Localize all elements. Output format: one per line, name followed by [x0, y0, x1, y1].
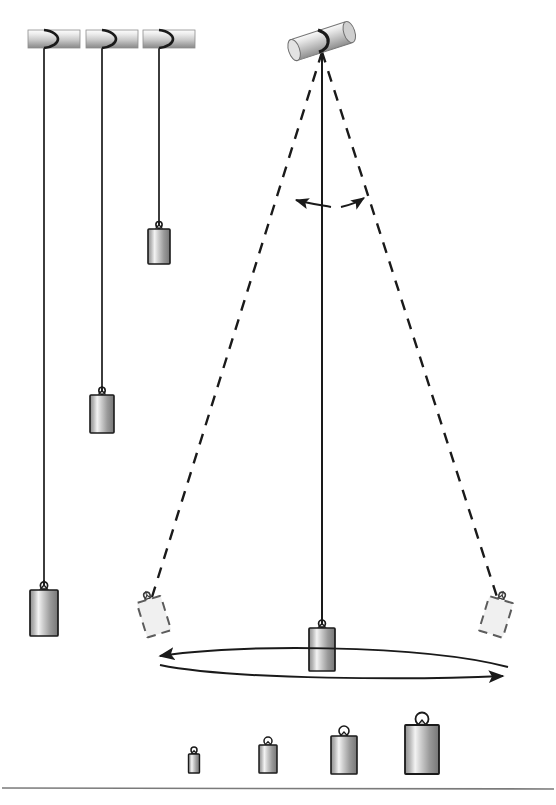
- long-pendulum: [28, 30, 80, 636]
- long-pendulum-bob: [30, 580, 58, 636]
- short-pendulum-bob: [148, 221, 170, 264]
- mass-3: [331, 726, 357, 774]
- hanging-pendulum-group: [28, 30, 195, 636]
- mass-4: [405, 713, 439, 775]
- swinging-pendulum-group: [134, 20, 516, 678]
- medium-pendulum: [86, 30, 138, 433]
- angle-arrows: [296, 198, 364, 207]
- mass-1: [189, 747, 200, 773]
- mass-2: [259, 737, 277, 773]
- medium-pendulum-bob: [90, 386, 114, 433]
- dashed-string-right: [322, 52, 497, 597]
- mass-series-group: [189, 713, 440, 775]
- angle-arrow-left: [296, 200, 331, 207]
- figure-canvas: [0, 0, 556, 805]
- short-pendulum-rod: [143, 30, 195, 48]
- medium-pendulum-rod: [86, 30, 138, 48]
- short-pendulum: [143, 30, 195, 264]
- footer-rule: [2, 788, 554, 789]
- pendulum-figure: [0, 0, 556, 805]
- rest-bob: [309, 619, 335, 671]
- long-pendulum-rod: [28, 30, 80, 48]
- angle-arrow-right: [341, 198, 364, 207]
- dashed-string-left: [152, 52, 322, 597]
